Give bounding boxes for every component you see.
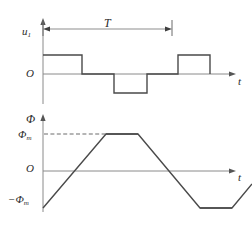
top-x-axis-label: t xyxy=(238,76,241,87)
bottom-y-axis-label: Φ xyxy=(26,113,35,125)
period-arrow-left xyxy=(43,27,50,32)
top-chart-group xyxy=(40,18,236,104)
top-origin-label: O xyxy=(26,68,34,79)
neg-phi-m-label: −Φm xyxy=(8,194,29,207)
bottom-x-axis-label: t xyxy=(238,172,241,183)
period-arrow-right xyxy=(165,27,172,32)
bottom-chart-group xyxy=(40,114,252,212)
bottom-origin-label: O xyxy=(26,163,34,174)
top-x-axis-arrowhead xyxy=(229,71,236,76)
bottom-x-axis-arrowhead xyxy=(229,168,236,173)
period-label: T xyxy=(104,17,111,29)
top-y-axis-label: u1 xyxy=(22,26,31,39)
bottom-y-axis-arrowhead xyxy=(40,114,45,121)
phi-m-label: Φm xyxy=(18,129,31,142)
figure-container: u1 T O t Φ Φm O −Φm t xyxy=(0,0,252,230)
waveform-figure xyxy=(0,0,252,230)
